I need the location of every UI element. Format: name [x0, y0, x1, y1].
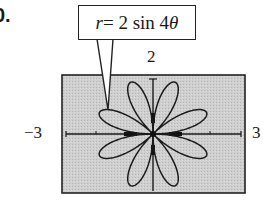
- equation-theta: θ: [169, 12, 178, 34]
- equation-callout: r = 2 sin 4θ: [78, 5, 196, 40]
- equation-variable: r: [96, 12, 103, 34]
- equation-body: = 2 sin 4: [103, 12, 169, 34]
